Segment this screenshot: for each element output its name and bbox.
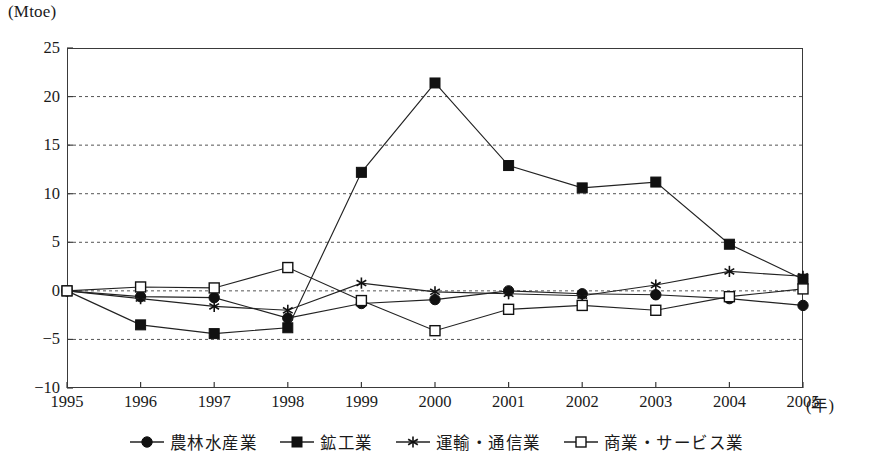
data-point-filled-square — [651, 177, 661, 187]
y-axis-tick-label: −5 — [42, 329, 60, 349]
x-axis-tick-label: 1998 — [271, 392, 304, 412]
data-point-filled-square — [292, 437, 302, 447]
data-point-open-square — [577, 300, 587, 310]
data-point-open-square — [430, 326, 440, 336]
data-point-filled-square — [577, 183, 587, 193]
y-axis-tick-label: 5 — [52, 232, 60, 252]
x-axis-tick-label: 1999 — [345, 392, 378, 412]
legend-item-2[interactable]: 運輸・通信業 — [395, 430, 541, 454]
series-layer — [67, 48, 803, 388]
y-axis-unit-label: (Mtoe) — [8, 2, 56, 22]
data-point-open-square — [62, 286, 72, 296]
x-axis-tick-label: 1997 — [198, 392, 231, 412]
legend-item-0[interactable]: 農林水産業 — [129, 430, 258, 454]
x-axis-tick-row: 1995199619971998199920002001200220032004… — [67, 392, 803, 418]
y-axis-tick-column: 2520151050−5−10 — [0, 48, 60, 388]
legend-label: 鉱工業 — [320, 430, 373, 454]
legend-marker-filled-circle-icon — [129, 434, 165, 450]
x-axis-unit-label: (年) — [806, 392, 834, 416]
legend-marker-asterisk-icon — [395, 434, 431, 450]
chart-legend: 農林水産業鉱工業運輸・通信業商業・サービス業 — [0, 430, 872, 454]
legend-marker-filled-square-icon — [279, 434, 315, 450]
data-point-filled-square — [724, 239, 734, 249]
y-axis-tick-label: 10 — [44, 184, 61, 204]
x-axis-tick-label: 1995 — [51, 392, 84, 412]
y-axis-tick-label: 20 — [44, 87, 61, 107]
data-point-filled-square — [136, 320, 146, 330]
legend-item-3[interactable]: 商業・サービス業 — [563, 430, 744, 454]
data-point-filled-square — [209, 329, 219, 339]
y-axis-tick-label: 25 — [44, 38, 61, 58]
data-point-open-square — [209, 283, 219, 293]
x-axis-tick-label: 2001 — [492, 392, 525, 412]
data-point-open-square — [651, 305, 661, 315]
x-axis-tick-label: 2003 — [639, 392, 672, 412]
series-2 — [62, 266, 808, 316]
legend-item-1[interactable]: 鉱工業 — [279, 430, 373, 454]
legend-label: 商業・サービス業 — [604, 430, 744, 454]
data-point-filled-square — [356, 167, 366, 177]
data-point-open-square — [356, 296, 366, 306]
x-axis-tick-label: 2000 — [419, 392, 452, 412]
data-point-open-square — [576, 437, 586, 447]
legend-label: 運輸・通信業 — [436, 430, 541, 454]
data-point-filled-circle — [651, 290, 661, 300]
plot-area — [67, 48, 803, 388]
data-point-open-square — [504, 304, 514, 314]
data-point-filled-circle — [798, 300, 808, 310]
legend-marker-open-square-icon — [563, 434, 599, 450]
data-point-filled-square — [504, 161, 514, 171]
chart-root: (Mtoe) 2520151050−5−10 19951996199719981… — [0, 0, 872, 465]
data-point-open-square — [798, 284, 808, 294]
x-axis-tick-label: 2004 — [713, 392, 746, 412]
y-axis-tick-label: 15 — [44, 135, 61, 155]
x-axis-tick-label: 2002 — [566, 392, 599, 412]
data-point-open-square — [724, 292, 734, 302]
data-point-filled-circle — [141, 437, 151, 447]
data-point-open-square — [283, 263, 293, 273]
x-axis-tick-label: 1996 — [124, 392, 157, 412]
data-point-filled-square — [283, 323, 293, 333]
data-point-filled-square — [430, 78, 440, 88]
legend-label: 農林水産業 — [170, 430, 258, 454]
data-point-open-square — [136, 282, 146, 292]
y-axis-tick-label: 0 — [52, 281, 60, 301]
